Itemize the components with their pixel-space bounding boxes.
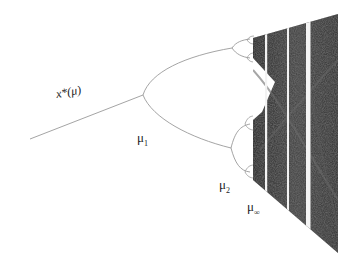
mu1-symbol: μ: [137, 130, 144, 145]
mu2-label: μ2: [219, 178, 230, 195]
mu-inf-symbol: μ: [247, 199, 254, 214]
mu-infinity-label: μ∞: [247, 200, 260, 217]
mu1-subscript: 1: [144, 139, 148, 148]
period-4-branch: [231, 124, 250, 172]
chaotic-region: [250, 10, 342, 260]
mu1-label: μ1: [137, 131, 148, 148]
mu2-symbol: μ: [219, 177, 226, 192]
periodic-window: [287, 10, 289, 260]
mu2-subscript: 2: [226, 186, 230, 195]
bifurcation-plot: [0, 0, 358, 271]
periodic-window: [306, 10, 311, 260]
period-2-upper-branch: [143, 48, 232, 95]
mu-inf-subscript: ∞: [254, 208, 260, 217]
period-4-branch: [232, 39, 250, 58]
periodic-window: [265, 10, 267, 260]
period-2-lower-branch: [143, 95, 231, 148]
fixed-point-branch: [30, 95, 143, 139]
